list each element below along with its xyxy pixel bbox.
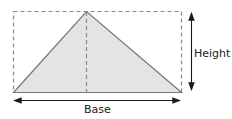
triangle	[14, 12, 182, 93]
base-label: Base	[84, 104, 111, 115]
height-label: Height	[194, 48, 230, 59]
